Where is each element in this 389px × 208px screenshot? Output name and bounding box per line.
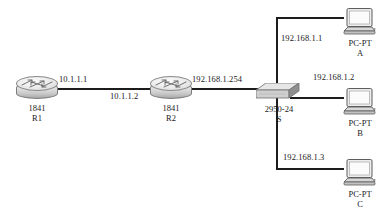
router-arrows-icon [18, 77, 56, 90]
pc-b-label: PC-PT B [331, 118, 389, 138]
ip-label-pc-b: 192.168.1.2 [313, 72, 354, 82]
link-r2-switch [185, 88, 260, 90]
switch-s-label: 2950-24 S [252, 104, 306, 124]
ip-label-pc-a: 192.168.1.1 [281, 33, 322, 43]
router-r1[interactable] [16, 76, 58, 102]
router-r2-name: R2 [142, 113, 200, 123]
link-r1-r2 [51, 88, 154, 90]
switch-s-name: S [252, 114, 306, 124]
pc-c[interactable] [343, 159, 377, 189]
router-r1-name: R1 [8, 113, 66, 123]
router-arrows-icon [152, 77, 190, 90]
pc-icon [343, 88, 377, 118]
router-r1-model: 1841 [29, 103, 46, 113]
pc-a[interactable] [343, 8, 377, 38]
link-switch-pc-c [276, 168, 344, 170]
pc-icon [343, 8, 377, 38]
switch-s[interactable] [256, 83, 300, 105]
pc-a-label: PC-PT A [331, 38, 389, 58]
pc-b[interactable] [343, 88, 377, 118]
switch-s-model: 2950-24 [265, 104, 293, 114]
router-r2-model: 1841 [163, 103, 180, 113]
pc-icon [343, 159, 377, 189]
ip-label-r1-wan: 10.1.1.1 [59, 74, 87, 84]
ip-label-pc-c: 192.168.1.3 [283, 152, 324, 162]
network-diagram: 1841 R1 1841 R2 2950-24 S [0, 0, 389, 208]
switch-icon [256, 83, 300, 105]
pc-c-label: PC-PT C [331, 189, 389, 208]
ip-label-r2-lan: 192.168.1.254 [192, 74, 242, 84]
pc-a-name: A [331, 48, 389, 58]
pc-b-model: PC-PT [348, 118, 371, 128]
ip-label-r2-wan: 10.1.1.2 [110, 91, 138, 101]
router-r2-label: 1841 R2 [142, 103, 200, 123]
link-switch-pc-a [276, 17, 344, 19]
router-r1-label: 1841 R1 [8, 103, 66, 123]
pc-c-model: PC-PT [348, 189, 371, 199]
router-r2[interactable] [150, 76, 192, 102]
pc-c-name: C [331, 199, 389, 208]
pc-a-model: PC-PT [348, 38, 371, 48]
pc-b-name: B [331, 128, 389, 138]
